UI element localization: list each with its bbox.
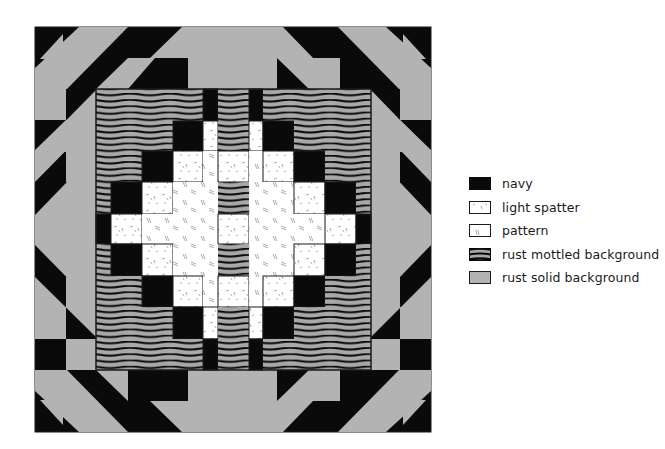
rust-mottled-cell <box>356 182 371 214</box>
pattern-cell <box>173 214 203 244</box>
rust-mottled-cell <box>263 339 294 370</box>
pattern-cell <box>249 151 263 182</box>
rust-mottled-cell <box>218 339 249 370</box>
rust-mottled-cell <box>218 307 249 339</box>
pattern-swatch-icon <box>469 224 491 237</box>
navy-cell <box>325 244 356 276</box>
light-spatter-cell <box>249 307 263 339</box>
rust-mottled-cell <box>325 307 356 339</box>
light-spatter-cell <box>142 182 173 214</box>
navy-cell <box>111 244 142 276</box>
light-spatter-cell <box>173 276 203 307</box>
legend-item-light-spatter: light spatter <box>469 196 659 219</box>
pattern-cell <box>203 182 218 214</box>
rust-mottled-cell <box>111 151 142 182</box>
pattern-cell <box>173 244 203 276</box>
pattern-cell <box>142 214 173 244</box>
rust-mottled-cell <box>218 89 249 121</box>
rust-mottled-cell <box>356 339 371 370</box>
pattern-cell <box>263 244 294 276</box>
rust-mottled-cell <box>218 182 249 214</box>
light-spatter-cell <box>142 244 173 276</box>
light-spatter-cell <box>263 276 294 307</box>
rust-mottled-cell <box>356 151 371 182</box>
rust-mottled-cell <box>218 244 249 276</box>
rust-mottled-cell <box>325 151 356 182</box>
rust-mottled-cell <box>96 339 111 370</box>
navy-cell <box>203 89 218 121</box>
legend-item-rust-mottled: rust mottled background <box>469 243 659 266</box>
rust-solid-swatch-icon <box>469 271 491 284</box>
rust-mottled-swatch-icon <box>469 248 491 261</box>
rust-mottled-cell <box>294 307 325 339</box>
inner-medallion-grid <box>96 89 371 370</box>
navy-cell <box>173 307 203 339</box>
legend-label: navy <box>502 176 533 191</box>
legend-item-navy: navy <box>469 172 659 195</box>
navy-swatch-icon <box>469 177 491 190</box>
light-spatter-cell <box>203 121 218 151</box>
light-spatter-cell <box>294 182 325 214</box>
light-spatter-cell <box>249 121 263 151</box>
navy-cell <box>96 214 111 244</box>
navy-cell <box>142 276 173 307</box>
light-spatter-cell <box>218 214 249 244</box>
rust-mottled-cell <box>111 89 142 121</box>
rust-mottled-cell <box>356 121 371 151</box>
pattern-cell <box>173 182 203 214</box>
legend-label: rust solid background <box>502 270 640 285</box>
legend-item-rust-solid: rust solid background <box>469 266 659 289</box>
rust-mottled-cell <box>96 276 111 307</box>
rust-mottled-cell <box>111 276 142 307</box>
light-spatter-cell <box>203 307 218 339</box>
rust-mottled-cell <box>96 151 111 182</box>
legend-label: rust mottled background <box>502 247 659 262</box>
light-spatter-cell <box>218 276 249 307</box>
rust-mottled-cell <box>325 339 356 370</box>
pattern-cell <box>249 214 263 244</box>
light-spatter-cell <box>173 151 203 182</box>
rust-mottled-cell <box>356 307 371 339</box>
pattern-cell <box>249 182 263 214</box>
navy-cell <box>111 182 142 214</box>
legend-label: light spatter <box>502 200 580 215</box>
rust-mottled-cell <box>294 89 325 121</box>
rust-mottled-cell <box>173 89 203 121</box>
rust-mottled-cell <box>96 89 111 121</box>
rust-mottled-cell <box>96 182 111 214</box>
rust-mottled-cell <box>142 121 173 151</box>
pattern-cell <box>294 214 325 244</box>
navy-cell <box>325 182 356 214</box>
light-spatter-cell <box>263 151 294 182</box>
legend-label: pattern <box>502 223 549 238</box>
navy-cell <box>249 89 263 121</box>
pattern-cell <box>203 276 218 307</box>
navy-cell <box>263 121 294 151</box>
rust-mottled-cell <box>96 307 111 339</box>
legend-item-pattern: pattern <box>469 219 659 242</box>
pattern-cell <box>249 244 263 276</box>
rust-mottled-cell <box>142 307 173 339</box>
pattern-cell <box>203 244 218 276</box>
pattern-cell <box>203 214 218 244</box>
pattern-cell <box>263 214 294 244</box>
rust-mottled-cell <box>325 121 356 151</box>
navy-cell <box>294 151 325 182</box>
rust-mottled-cell <box>142 339 173 370</box>
navy-cell <box>356 214 371 244</box>
pattern-cell <box>203 151 218 182</box>
light-spatter-swatch-icon <box>469 201 491 214</box>
light-spatter-cell <box>218 151 249 182</box>
navy-cell <box>294 276 325 307</box>
rust-mottled-cell <box>218 121 249 151</box>
rust-mottled-cell <box>356 89 371 121</box>
rust-mottled-cell <box>325 89 356 121</box>
navy-cell <box>263 307 294 339</box>
rust-mottled-cell <box>325 276 356 307</box>
light-spatter-cell <box>294 244 325 276</box>
navy-cell <box>249 339 263 370</box>
rust-mottled-cell <box>263 89 294 121</box>
rust-mottled-cell <box>356 276 371 307</box>
legend: navy light spatter pattern rust mottled … <box>469 172 659 290</box>
pattern-cell <box>249 276 263 307</box>
